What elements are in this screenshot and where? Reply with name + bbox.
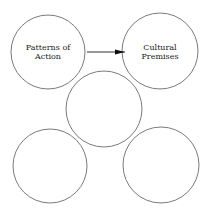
node-middle [66, 71, 142, 147]
circle-shape [123, 127, 199, 203]
diagram-canvas: Patterns of Action Cultural Premises [0, 0, 208, 217]
node-bottom-left [13, 129, 87, 203]
node-cultural-premises: Cultural Premises [122, 13, 198, 89]
node-label-line1: Patterns of [26, 43, 71, 52]
circle-shape [13, 129, 87, 203]
node-label-line2: Action [34, 52, 61, 61]
node-bottom-right [123, 127, 199, 203]
circle-shape [66, 71, 142, 147]
node-label-line2: Premises [141, 52, 178, 61]
node-patterns-of-action: Patterns of Action [11, 15, 85, 89]
node-label-line1: Cultural [143, 43, 177, 52]
